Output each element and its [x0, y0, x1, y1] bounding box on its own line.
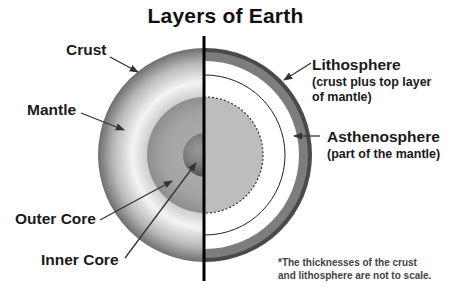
lithosphere-description-line2: of mantle): [312, 90, 372, 105]
lithosphere-label: Lithosphere: [312, 56, 401, 74]
inner-core-label: Inner Core: [41, 251, 119, 269]
scale-footnote: *The thicknesses of the crust and lithos…: [278, 256, 431, 282]
outer-core-label: Outer Core: [15, 210, 96, 228]
mantle-label: Mantle: [27, 101, 76, 119]
asthenosphere-description: (part of the mantle): [327, 147, 440, 162]
lithosphere-description-line1: (crust plus top layer: [312, 75, 431, 90]
footnote-line2: and lithosphere are not to scale.: [278, 269, 431, 282]
crust-arrow: [110, 57, 138, 72]
lithosphere-arrow: [284, 63, 311, 80]
crust-label: Crust: [66, 41, 106, 59]
footnote-line1: *The thicknesses of the crust: [278, 256, 431, 269]
asthenosphere-label: Asthenosphere: [327, 128, 440, 146]
